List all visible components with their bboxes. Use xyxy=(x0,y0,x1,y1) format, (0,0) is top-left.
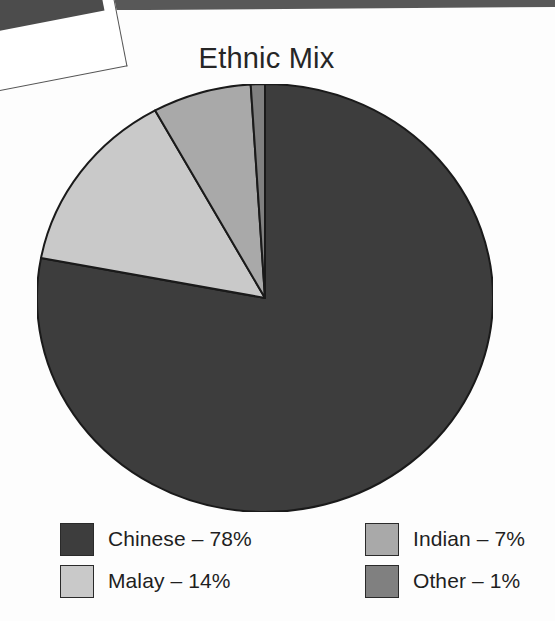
legend-item-chinese: Chinese – 78% xyxy=(60,523,365,556)
legend-label-indian: Indian – 7% xyxy=(413,527,525,551)
legend-swatch-malay xyxy=(60,565,94,598)
legend-item-other: Other – 1% xyxy=(365,565,530,598)
chart-legend: Chinese – 78% Indian – 7% Malay – 14% Ot… xyxy=(60,518,530,602)
legend-label-other: Other – 1% xyxy=(413,569,520,593)
legend-swatch-other xyxy=(365,565,399,598)
chart-page: Ethnic Mix Chinese – 78% Indian – 7% Mal… xyxy=(0,0,555,621)
pie-slice-group xyxy=(37,84,493,512)
pie-chart xyxy=(37,84,493,512)
legend-label-chinese: Chinese – 78% xyxy=(108,527,252,551)
pie-chart-svg xyxy=(37,84,493,512)
legend-swatch-chinese xyxy=(60,523,94,556)
legend-label-malay: Malay – 14% xyxy=(108,569,231,593)
chart-title: Ethnic Mix xyxy=(0,42,555,75)
legend-swatch-indian xyxy=(365,523,399,556)
legend-item-indian: Indian – 7% xyxy=(365,523,530,556)
legend-item-malay: Malay – 14% xyxy=(60,565,365,598)
chart-title-text: Ethnic Mix xyxy=(199,42,335,75)
